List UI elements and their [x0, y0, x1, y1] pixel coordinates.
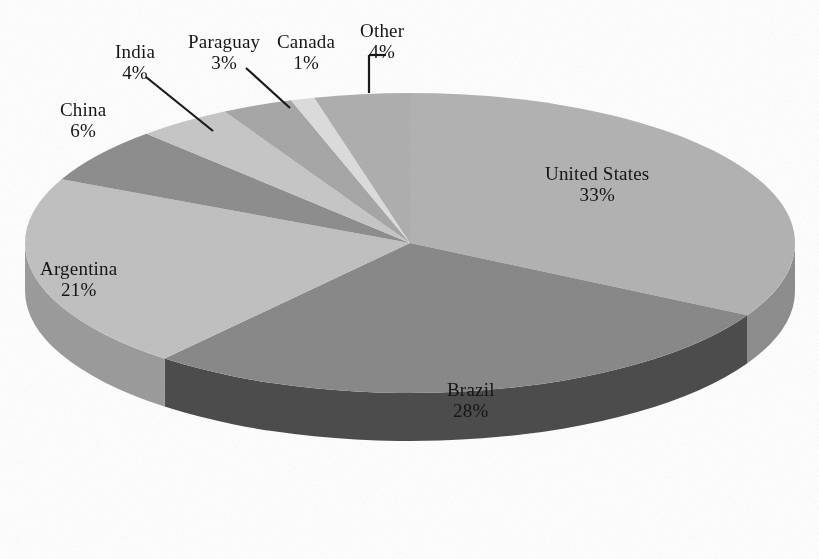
slice-label-name: China	[60, 99, 106, 120]
slice-label-percent: 1%	[277, 52, 335, 73]
slice-label-brazil: Brazil28%	[447, 379, 495, 422]
slice-label-name: Other	[360, 20, 404, 41]
slice-label-percent: 4%	[115, 62, 155, 83]
slice-label-percent: 28%	[447, 400, 495, 421]
slice-label-percent: 3%	[188, 52, 260, 73]
slice-label-percent: 4%	[360, 41, 404, 62]
pie-chart-graphic	[0, 0, 819, 559]
slice-label-other: Other4%	[360, 20, 404, 63]
slice-label-paraguay: Paraguay3%	[188, 31, 260, 74]
paraguay-leader	[246, 68, 290, 108]
slice-label-argentina: Argentina21%	[40, 258, 117, 301]
slice-label-name: India	[115, 41, 155, 62]
slice-label-name: Brazil	[447, 379, 495, 400]
slice-label-name: Paraguay	[188, 31, 260, 52]
slice-label-percent: 21%	[40, 279, 117, 300]
slice-label-united-states: United States33%	[545, 163, 649, 206]
slice-label-china: China6%	[60, 99, 106, 142]
slice-label-percent: 6%	[60, 120, 106, 141]
slice-label-canada: Canada1%	[277, 31, 335, 74]
slice-label-india: India4%	[115, 41, 155, 84]
slice-label-percent: 33%	[545, 184, 649, 205]
pie-top-faces	[25, 93, 795, 393]
slice-label-name: Argentina	[40, 258, 117, 279]
slice-label-name: Canada	[277, 31, 335, 52]
slice-label-name: United States	[545, 163, 649, 184]
pie-chart-figure: United States33%Brazil28%Argentina21%Chi…	[0, 0, 819, 559]
